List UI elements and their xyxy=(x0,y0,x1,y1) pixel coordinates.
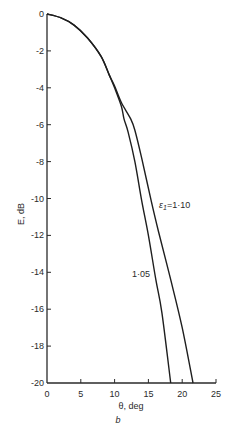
x-axis-label: θ, deg xyxy=(118,401,143,411)
y-tick-label: -16 xyxy=(31,304,44,314)
y-axis-label: E, dB xyxy=(16,203,26,225)
y-tick-label: 0 xyxy=(39,9,44,19)
x-tick-label: 15 xyxy=(143,389,153,399)
axes xyxy=(47,14,216,383)
epsilon-value: =1·10 xyxy=(167,200,190,210)
y-tick-label: -20 xyxy=(31,378,44,388)
curve-1-10 xyxy=(47,14,193,383)
y-tick-label: -14 xyxy=(31,267,44,277)
curves xyxy=(47,14,193,383)
x-ticks: 0510152025 xyxy=(44,379,221,399)
chart: 0510152025 0-2-4-6-8-10-12-14-16-18-20 θ… xyxy=(0,0,234,446)
x-tick-label: 25 xyxy=(211,389,221,399)
y-tick-label: -2 xyxy=(36,46,44,56)
panel-label: b xyxy=(115,415,120,425)
y-tick-label: -18 xyxy=(31,341,44,351)
y-ticks: 0-2-4-6-8-10-12-14-16-18-20 xyxy=(31,9,51,388)
y-tick-label: -4 xyxy=(36,83,44,93)
series-label-1-10: ε1=1·10 xyxy=(159,200,190,211)
curve-1-05 xyxy=(47,14,171,383)
y-tick-label: -8 xyxy=(36,157,44,167)
y-tick-label: -6 xyxy=(36,120,44,130)
x-tick-label: 5 xyxy=(78,389,83,399)
y-tick-label: -10 xyxy=(31,194,44,204)
x-tick-label: 20 xyxy=(177,389,187,399)
series-label-1-05: 1·05 xyxy=(132,269,150,279)
x-tick-label: 10 xyxy=(110,389,120,399)
y-tick-label: -12 xyxy=(31,230,44,240)
x-tick-label: 0 xyxy=(44,389,49,399)
